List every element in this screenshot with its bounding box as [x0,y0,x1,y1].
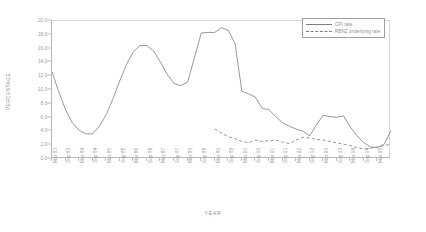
legend-label-rbnz: RBNZ underlying rate [335,29,380,34]
y-tick-label: 20.0 [14,18,47,23]
x-tick-mark [363,158,364,161]
x-tick-label: Mar 87 [161,148,166,163]
legend-item-cpi: CPI rate [306,21,380,28]
x-tick-label: Mar 91 [270,148,275,163]
y-tick-label: 14.0 [14,59,47,64]
x-tick-label: Mar 88 [188,148,193,163]
y-tick-label: 12.0 [14,73,47,78]
x-tick-label: Mar 86 [134,148,139,163]
y-tick-label: 10.0 [14,87,47,92]
inflation-line-chart: 0.02.04.06.08.010.012.014.016.018.020.0 … [0,0,426,232]
x-tick-mark [146,158,147,161]
legend-line-dashed-icon [306,31,332,32]
y-tick-label: 18.0 [14,31,47,36]
x-tick-label: Sep 93 [338,148,343,163]
x-tick-label: Sep 91 [283,148,288,163]
series-line-rbnz-underlying-rate [215,129,391,149]
x-tick-label: Mar 83 [53,148,58,163]
x-tick-label: Mar 95 [378,148,383,163]
y-tick-label: 16.0 [14,45,47,50]
x-tick-label: Sep 85 [121,148,126,163]
x-tick-mark [200,158,201,161]
x-axis: Mar 83Sep 83Mar 84Sep 84Mar 85Sep 85Mar … [51,158,390,208]
x-tick-label: Sep 86 [148,148,153,163]
y-tick-label: 0.0 [14,156,47,161]
legend-line-solid-icon [306,24,332,25]
x-tick-label: Mar 93 [324,148,329,163]
y-axis-title: PERCENTAGE [6,63,11,121]
x-tick-label: Sep 89 [229,148,234,163]
x-tick-label: Mar 92 [297,148,302,163]
x-tick-label: Sep 87 [175,148,180,163]
x-tick-label: Mar 85 [107,148,112,163]
x-tick-label: Sep 83 [66,148,71,163]
x-tick-mark [78,158,79,161]
x-tick-mark [241,158,242,161]
x-tick-label: Mar 90 [243,148,248,163]
legend-label-cpi: CPI rate [335,22,352,27]
x-tick-mark [214,158,215,161]
x-tick-mark [51,158,52,161]
y-tick-label: 4.0 [14,128,47,133]
x-axis-title: YEAR [0,210,426,216]
x-tick-mark [336,158,337,161]
legend-item-rbnz: RBNZ underlying rate [306,28,380,35]
y-tick-label: 6.0 [14,114,47,119]
x-tick-label: Mar 89 [216,148,221,163]
x-tick-label: Sep 90 [256,148,261,163]
x-tick-label: Sep 94 [365,148,370,163]
x-tick-mark [173,158,174,161]
x-tick-label: Sep 88 [202,148,207,163]
y-tick-label: 2.0 [14,142,47,147]
x-tick-label: Mar 94 [351,148,356,163]
x-tick-mark [268,158,269,161]
series-lines [52,20,391,158]
plot-area [51,20,390,158]
x-tick-mark [119,158,120,161]
y-tick-label: 8.0 [14,100,47,105]
x-tick-label: Mar 84 [80,148,85,163]
series-line-cpi-rate [52,28,391,148]
x-tick-mark [295,158,296,161]
x-tick-label: Sep 92 [310,148,315,163]
chart-legend: CPI rate RBNZ underlying rate [302,18,385,38]
x-tick-label: Sep 84 [93,148,98,163]
